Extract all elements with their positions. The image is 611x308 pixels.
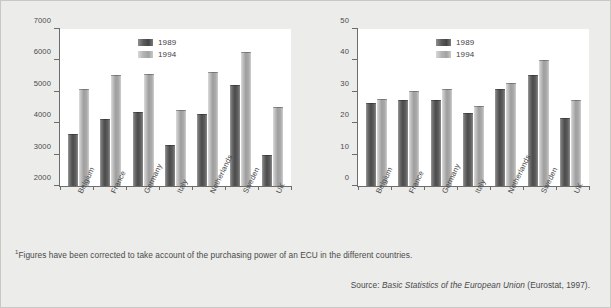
source-prefix: Source:	[351, 280, 380, 290]
y-tick-label-right: 50	[340, 16, 349, 25]
bar-group	[230, 29, 251, 186]
bar-group	[262, 29, 283, 186]
bar-1994	[539, 60, 549, 186]
bar-group	[495, 29, 516, 186]
x-tick-right	[589, 186, 590, 190]
x-tick-left	[258, 186, 259, 190]
legend-label-1989-right: 1989	[456, 38, 475, 47]
y-tick-label-right: 0	[345, 173, 349, 182]
y-tick-left	[54, 185, 60, 186]
bar-group	[528, 29, 549, 186]
bar-1989	[431, 100, 441, 186]
x-tick-left	[225, 186, 226, 190]
figure-footnote: 1Figures have been corrected to take acc…	[15, 249, 412, 260]
bar-1994	[208, 72, 218, 186]
bar-1989	[495, 89, 505, 186]
legend-swatch-1994-right	[436, 51, 451, 58]
y-tick-label-left: 4000	[34, 110, 51, 119]
x-tick-right	[391, 186, 392, 190]
bar-1994	[474, 106, 484, 186]
bar-1989	[398, 100, 408, 186]
x-tick-right	[457, 186, 458, 190]
bar-group	[398, 29, 419, 186]
y-tick-label-right: 40	[340, 47, 349, 56]
bar-group	[68, 29, 89, 186]
x-tick-left	[60, 186, 61, 190]
bar-1989	[366, 103, 376, 186]
bar-1994	[241, 52, 251, 186]
legend-right: 1989 1994	[436, 38, 475, 62]
x-axis-labels-right: BelgiumFranceGermanyItalyNetherlandsSwed…	[357, 191, 589, 239]
bar-1989	[197, 114, 207, 186]
x-tick-left	[126, 186, 127, 190]
x-tick-left	[159, 186, 160, 190]
bar-1989	[165, 145, 175, 186]
x-axis-labels-left: BelgiumFranceGermanyItalyNetherlandsSwed…	[59, 191, 291, 239]
legend-label-1994-left: 1994	[158, 50, 177, 59]
bar-1989	[68, 134, 78, 186]
bar-1994	[571, 100, 581, 186]
y-tick-right	[352, 185, 358, 186]
chart-panel-ecu-per-head: ECU per head1 200030004000500060007000 1…	[15, 15, 299, 230]
y-tick-left	[54, 154, 60, 155]
y-tick-label-right: 10	[340, 141, 349, 150]
source-title: Basic Statistics of the European Union	[382, 280, 525, 290]
chart-panel-percent-of-gdp: % of GDP 01020304050 1989 1994 BelgiumFr…	[313, 15, 597, 230]
legend-item-1989-left: 1989	[138, 38, 177, 47]
x-tick-right	[358, 186, 359, 190]
x-tick-left	[93, 186, 94, 190]
legend-swatch-1989-left	[138, 39, 153, 46]
y-tick-label-left: 6000	[34, 47, 51, 56]
y-tick-right	[352, 28, 358, 29]
bar-group	[560, 29, 581, 186]
bar-1989	[100, 119, 110, 186]
x-tick-left	[192, 186, 193, 190]
x-tick-right	[490, 186, 491, 190]
legend-item-1994-left: 1994	[138, 50, 177, 59]
y-tick-label-left: 5000	[34, 78, 51, 87]
legend-swatch-1994-left	[138, 51, 153, 58]
bar-1994	[176, 110, 186, 186]
bar-1989	[230, 85, 240, 186]
y-tick-left	[54, 28, 60, 29]
bar-1994	[273, 107, 283, 186]
legend-item-1994-right: 1994	[436, 50, 475, 59]
plot-wrapper-right: % of GDP 01020304050 1989 1994	[357, 29, 589, 187]
bar-group	[100, 29, 121, 186]
figure-source: Source: Basic Statistics of the European…	[351, 280, 590, 290]
legend-left: 1989 1994	[138, 38, 177, 62]
y-tick-label-left: 2000	[34, 173, 51, 182]
x-tick-right	[556, 186, 557, 190]
y-tick-right	[352, 122, 358, 123]
legend-swatch-1989-right	[436, 39, 451, 46]
y-tick-label-right: 30	[340, 78, 349, 87]
y-tick-label-right: 20	[340, 110, 349, 119]
bar-group	[197, 29, 218, 186]
figure-container: ECU per head1 200030004000500060007000 1…	[0, 0, 611, 308]
x-tick-right	[424, 186, 425, 190]
y-tick-left	[54, 59, 60, 60]
bar-1989	[528, 75, 538, 186]
y-tick-right	[352, 154, 358, 155]
y-tick-right	[352, 91, 358, 92]
y-tick-left	[54, 91, 60, 92]
bar-1989	[463, 113, 473, 186]
bar-1989	[262, 155, 272, 186]
footnote-text: Figures have been corrected to take acco…	[18, 250, 412, 260]
y-tick-label-left: 3000	[34, 141, 51, 150]
legend-label-1989-left: 1989	[158, 38, 177, 47]
y-tick-left	[54, 122, 60, 123]
bar-1989	[133, 112, 143, 186]
legend-item-1989-right: 1989	[436, 38, 475, 47]
x-tick-right	[523, 186, 524, 190]
y-tick-right	[352, 59, 358, 60]
bar-group	[366, 29, 387, 186]
y-tick-label-left: 7000	[34, 16, 51, 25]
bar-1989	[560, 118, 570, 186]
x-tick-left	[291, 186, 292, 190]
source-suffix: (Eurostat, 1997).	[527, 280, 590, 290]
plot-wrapper-left: ECU per head1 200030004000500060007000 1…	[59, 29, 291, 187]
legend-label-1994-right: 1994	[456, 50, 475, 59]
